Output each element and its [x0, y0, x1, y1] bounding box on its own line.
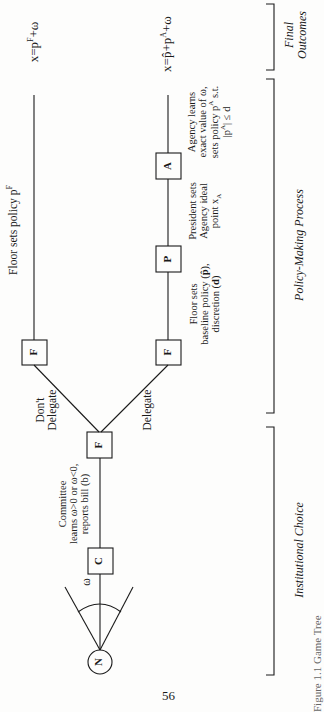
bracket-final-outcomes	[266, 4, 274, 70]
outcome-bottom: x=p̂+pA+ω	[160, 4, 174, 84]
node-agency-label: A	[162, 159, 174, 173]
figure-caption: Figure 1.1 Game Tree	[312, 582, 324, 712]
node-nature-label: N	[93, 655, 105, 669]
bracket-policy-making	[266, 79, 274, 413]
stage-institutional-choice: Institutional Choice	[293, 485, 306, 615]
outcome-top: x=pF+ω	[27, 12, 41, 72]
node-floor-trunk-label: F	[93, 438, 105, 452]
node-president-label: P	[162, 252, 174, 266]
stage-final-outcomes: Final Outcomes	[283, 5, 308, 65]
node-floor-bottom-label: F	[162, 345, 174, 359]
floor-bottom-annotation: Floor sets baseline policy (p̂), discret…	[188, 263, 221, 345]
delegate-label: Delegate	[141, 380, 153, 440]
nature-fan-left	[65, 587, 100, 650]
agency-annotation: Agency learns exact value of ω, sets pol…	[186, 82, 231, 162]
omega-label: ω	[80, 572, 92, 592]
nature-fan-right	[100, 587, 133, 650]
edge-delegate	[101, 365, 168, 432]
dont-delegate-label: Don't Delegate	[34, 380, 58, 440]
president-annotation: President sets Agency ideal point xA	[187, 175, 223, 247]
committee-annotation: Committee learns ω>0 or ω<0, reports bil…	[57, 464, 90, 544]
bracket-institutional	[266, 427, 274, 675]
stage-policy-making: Policy-Making Process	[293, 160, 306, 330]
node-floor-top-label: F	[28, 345, 40, 359]
floor-top-annotation: Floor sets policy pF	[6, 155, 19, 305]
node-committee-label: C	[93, 554, 105, 568]
page-number: 56	[162, 688, 175, 704]
